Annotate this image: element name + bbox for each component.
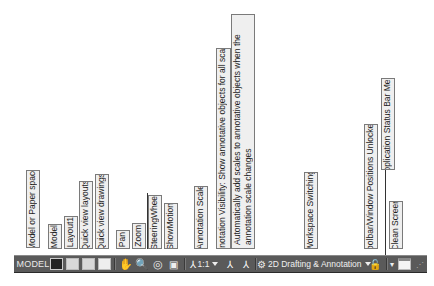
- quick-view-layouts-icon: [82, 258, 95, 270]
- layout1-tab-button[interactable]: [65, 256, 80, 272]
- model-paper-toggle[interactable]: MODEL: [16, 256, 50, 272]
- zoom-button[interactable]: 🔍: [134, 256, 149, 272]
- showmotion-button[interactable]: ▣: [166, 256, 181, 272]
- callout-layout1: Layout1: [64, 216, 78, 249]
- steeringwheel-button[interactable]: ◎: [150, 256, 165, 272]
- callout-pan: Pan: [116, 230, 130, 249]
- annotation-scale-icon: ⅄: [190, 259, 196, 270]
- chevron-down-icon: [212, 262, 218, 266]
- clean-screen-button[interactable]: [397, 256, 412, 272]
- callout-model-paper-space: Model or Paper space: [26, 170, 40, 248]
- menu-arrow-icon: ▾: [390, 260, 394, 269]
- callout-annotation-scale: Annotation Scale: [194, 186, 208, 249]
- callout-quick-view-layouts: Quick view layouts: [79, 181, 93, 249]
- callout-app-status-menu: Application Status Bar Menu: [381, 78, 395, 170]
- callout-clean-screen: Clean Screen: [389, 201, 403, 249]
- annotation-visibility-icon: ⅄: [227, 259, 233, 270]
- clean-screen-icon: [398, 258, 411, 270]
- auto-add-scales-icon: ⅄: [243, 259, 249, 270]
- resize-grip-icon: ⋰: [416, 260, 424, 269]
- lock-icon: 🔓: [369, 259, 381, 270]
- quick-view-drawings-button[interactable]: [97, 256, 112, 272]
- separator: [114, 258, 116, 270]
- callout-workspace-switching: Workspace Switching: [304, 172, 318, 249]
- pan-icon: ✋: [119, 258, 133, 271]
- callout-toolbar-unlocked: Toolbar/Window Positions Unlocked: [364, 124, 378, 249]
- zoom-icon: 🔍: [135, 258, 149, 271]
- annotation-scale-dropdown[interactable]: ⅄ 1:1: [187, 256, 221, 272]
- callout-zoom: Zoom: [132, 223, 146, 249]
- callout-annotation-visibility: Annotation Visibility: Show annotative o…: [216, 48, 231, 249]
- callout-auto-add-scales: Automatically add scales to annotative o…: [231, 14, 255, 249]
- application-status-bar-menu-button[interactable]: ▾: [388, 256, 396, 272]
- auto-add-scales-button[interactable]: ⅄: [238, 256, 253, 272]
- quick-view-drawings-icon: [98, 258, 111, 270]
- callout-showmotion: ShowMotion: [164, 203, 178, 249]
- gear-icon: ⚙: [257, 259, 266, 270]
- callout-model: Model: [48, 224, 62, 249]
- layout-icon: [66, 258, 79, 270]
- separator: [184, 258, 186, 270]
- application-status-bar: MODEL ✋ 🔍 ◎ ▣ ⅄ 1:1 ⅄ ⅄ ⚙ 2D Drafting & …: [14, 255, 427, 273]
- leader-line: [385, 170, 386, 255]
- toolbar-lock-button[interactable]: 🔓: [367, 256, 383, 272]
- resize-grip[interactable]: ⋰: [414, 256, 426, 272]
- steeringwheel-icon: ◎: [153, 258, 163, 271]
- workspace-switching-dropdown[interactable]: ⚙ 2D Drafting & Annotation: [257, 256, 365, 272]
- annotation-visibility-button[interactable]: ⅄: [222, 256, 237, 272]
- model-tab-button[interactable]: [49, 256, 64, 272]
- quick-view-layouts-button[interactable]: [81, 256, 96, 272]
- callout-quick-view-drawings: Quick view drawings: [95, 174, 109, 249]
- showmotion-icon: ▣: [169, 259, 178, 270]
- callout-steeringwheel: SteeringWheel: [148, 195, 162, 249]
- model-icon: [50, 258, 63, 270]
- pan-button[interactable]: ✋: [118, 256, 133, 272]
